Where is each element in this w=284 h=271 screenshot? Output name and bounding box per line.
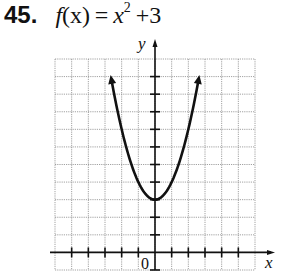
y-axis-label: y <box>136 34 146 53</box>
y-axis-arrow-icon <box>153 39 158 47</box>
graph: x y 0 <box>0 0 284 271</box>
axes <box>50 39 275 270</box>
x-axis-label: x <box>264 253 273 271</box>
origin-label: 0 <box>141 255 149 271</box>
